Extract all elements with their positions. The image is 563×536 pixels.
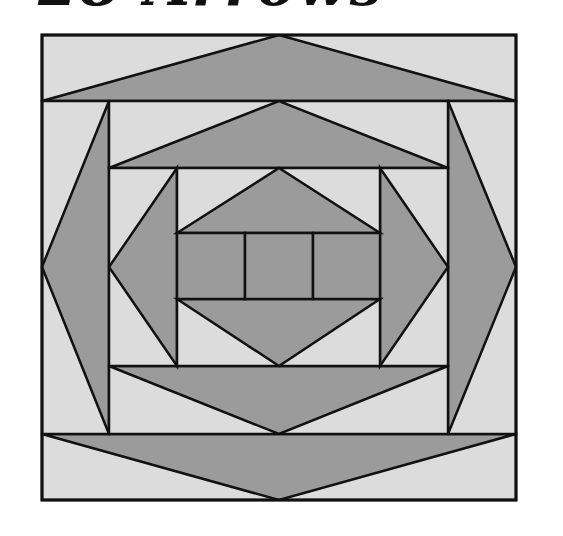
- top-band: [42, 35, 516, 101]
- core-bottom-band: [177, 299, 380, 366]
- inner-bottom-band: [109, 366, 448, 434]
- left-band: [42, 101, 109, 434]
- bottom-band: [42, 434, 516, 500]
- center-square-2: [245, 233, 313, 299]
- right-band: [448, 101, 516, 434]
- core-top-band: [177, 168, 380, 233]
- quilt-block-diagram: [0, 0, 563, 536]
- inner-right-band: [380, 168, 448, 366]
- center-square-1: [177, 233, 245, 299]
- inner-top-band: [109, 101, 448, 168]
- center-square-3: [313, 233, 380, 299]
- center-squares: [177, 233, 380, 299]
- inner-left-band: [109, 168, 177, 366]
